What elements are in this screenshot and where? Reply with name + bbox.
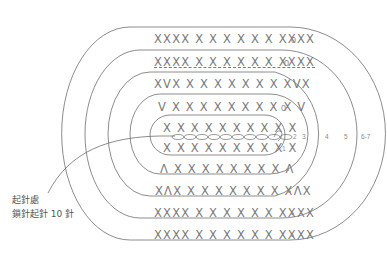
row-7-end-mark: 0 [291, 35, 296, 45]
row-6-bottom-mark: • [291, 231, 294, 241]
round-number-4: 4 [325, 133, 329, 141]
round-number-2: 2 [293, 133, 297, 141]
row-3-bottom-mark: • [286, 165, 289, 175]
start-point-label: 起針處 [12, 194, 39, 206]
row-6-top: XXXX X X X X X X XXXX [154, 56, 315, 68]
foundation-chain-label: 鎖針起針 10 針 [12, 208, 74, 220]
row-1-bottom: X X X X X X X X X X [163, 142, 297, 154]
row-4-bottom-mark: • [288, 187, 291, 197]
row-4-end-mark: 0 [281, 103, 286, 113]
row-3-bottom: Λ X X X X X X X X Λ [160, 163, 294, 175]
round-number-6-7: 6-7 [361, 133, 370, 141]
row-2-top: X X X X X X X X X X [163, 122, 297, 134]
row-5-top: XVX X X X X X X X XVX [154, 78, 311, 90]
row-6-end-mark: 0 [284, 58, 289, 68]
round-number-1: 1 [282, 145, 286, 153]
row-5-bottom-mark: • [291, 209, 294, 219]
round-number-3: 3 [302, 133, 306, 141]
round-number-5: 5 [344, 133, 348, 141]
